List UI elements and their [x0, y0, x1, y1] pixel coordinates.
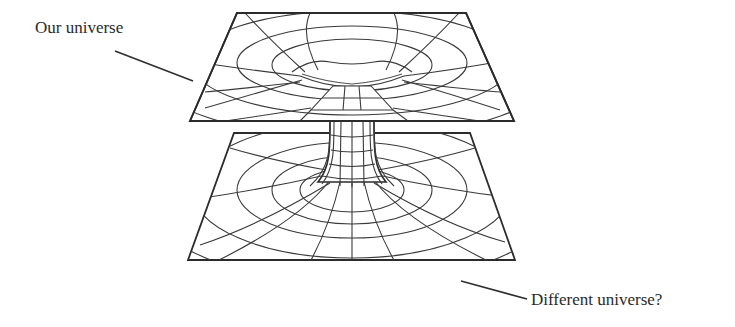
wormhole-figure	[0, 0, 735, 327]
our-universe-sheet	[142, 0, 562, 138]
bottom-leader-line	[461, 281, 527, 299]
our-universe-label: Our universe	[35, 19, 123, 36]
different-universe-label: Different universe?	[531, 291, 662, 308]
top-leader-line	[115, 51, 193, 81]
wormhole-diagram	[0, 0, 735, 327]
